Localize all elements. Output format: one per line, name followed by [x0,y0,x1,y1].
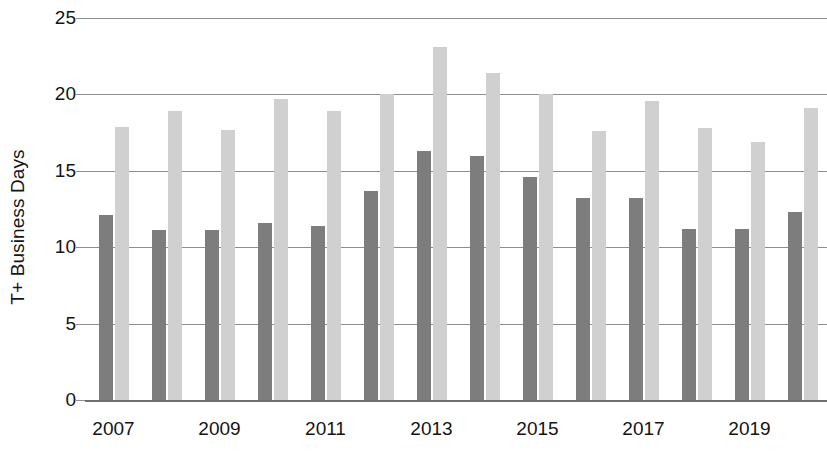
gridline [85,18,827,19]
bar [274,99,288,400]
y-axis-tick [76,247,85,248]
bar [804,108,818,400]
gridline [85,171,827,172]
bar [99,215,113,400]
x-axis-line [85,400,827,402]
bar [311,226,325,400]
y-axis-tick [76,400,85,401]
bar [592,131,606,400]
bar [698,128,712,400]
y-axis-tick [76,94,85,95]
bar [433,47,447,400]
bar [205,230,219,400]
y-axis-tick-label: 10 [30,236,76,258]
x-axis-tick-label: 2013 [397,418,467,440]
bar [751,142,765,400]
bar [152,230,166,400]
x-axis-tick-label: 2007 [79,418,149,440]
y-axis-tick [76,171,85,172]
y-axis-tick [76,18,85,19]
bar [576,198,590,400]
bar [364,191,378,400]
x-axis-tick-label: 2015 [503,418,573,440]
y-axis-tick-labels: 0510152025 [0,0,76,454]
gridline [85,94,827,95]
bar [380,94,394,400]
bar [523,177,537,400]
y-axis-tick-label: 15 [30,160,76,182]
bar [486,73,500,400]
y-axis-tick-label: 0 [30,389,76,411]
x-axis-tick-label: 2017 [609,418,679,440]
gridline [85,247,827,248]
bar [788,212,802,400]
bar [115,127,129,401]
bar [735,229,749,400]
x-axis-tick-label: 2019 [715,418,785,440]
plot-area [85,18,827,400]
bar [539,94,553,400]
bar [682,229,696,400]
bar [645,101,659,400]
x-axis-tick-label: 2011 [291,418,361,440]
bar [168,111,182,400]
bar [221,130,235,400]
y-axis-tick-label: 20 [30,83,76,105]
x-axis-tick-label: 2009 [185,418,255,440]
gridline [85,324,827,325]
y-axis-tick [76,324,85,325]
y-axis-tick-label: 25 [30,7,76,29]
bar [327,111,341,400]
bar [470,156,484,400]
y-axis-tick-label: 5 [30,313,76,335]
bar [258,223,272,400]
bar [417,151,431,400]
bar [629,198,643,400]
x-axis-tick-labels: 2007200920112013201520172019 [85,410,827,454]
bar-chart: T+ Business Days 0510152025 200720092011… [0,0,827,454]
